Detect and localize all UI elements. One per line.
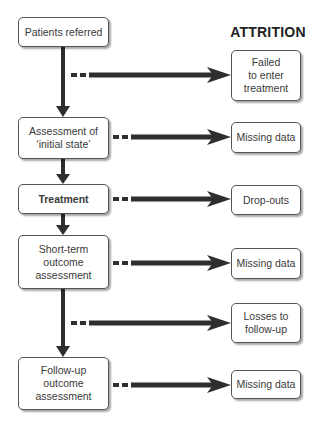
- flow-label: Treatment: [38, 193, 88, 206]
- attrition-label: Failed to enter treatment: [244, 56, 288, 95]
- flow-box-assessment-initial-state: Assessment of ‘initial state’: [18, 117, 109, 159]
- attrition-label: Missing data: [237, 257, 296, 270]
- attrition-label: Losses to follow-up: [244, 310, 289, 336]
- attrition-label: Missing data: [237, 378, 296, 391]
- flow-box-treatment: Treatment: [18, 184, 109, 214]
- attrition-box-missing-data-3: Missing data: [231, 370, 301, 399]
- flow-label: Follow-up outcome assessment: [35, 364, 91, 403]
- flow-box-short-term-outcome: Short-term outcome assessment: [18, 235, 109, 289]
- attrition-box-missing-data-2: Missing data: [231, 248, 301, 279]
- attrition-box-losses-to-follow-up: Losses to follow-up: [231, 303, 301, 343]
- attrition-box-missing-data-1: Missing data: [231, 122, 301, 153]
- attrition-box-drop-outs: Drop-outs: [231, 185, 301, 215]
- attrition-box-failed-to-enter: Failed to enter treatment: [231, 50, 301, 101]
- flow-label: Patients referred: [25, 26, 103, 39]
- flow-box-patients-referred: Patients referred: [18, 17, 109, 47]
- flow-label: Assessment of ‘initial state’: [29, 125, 98, 151]
- attrition-label: Missing data: [237, 131, 296, 144]
- flow-label: Short-term outcome assessment: [35, 243, 91, 282]
- flow-box-follow-up-outcome: Follow-up outcome assessment: [18, 357, 109, 410]
- attrition-label: Drop-outs: [243, 194, 289, 207]
